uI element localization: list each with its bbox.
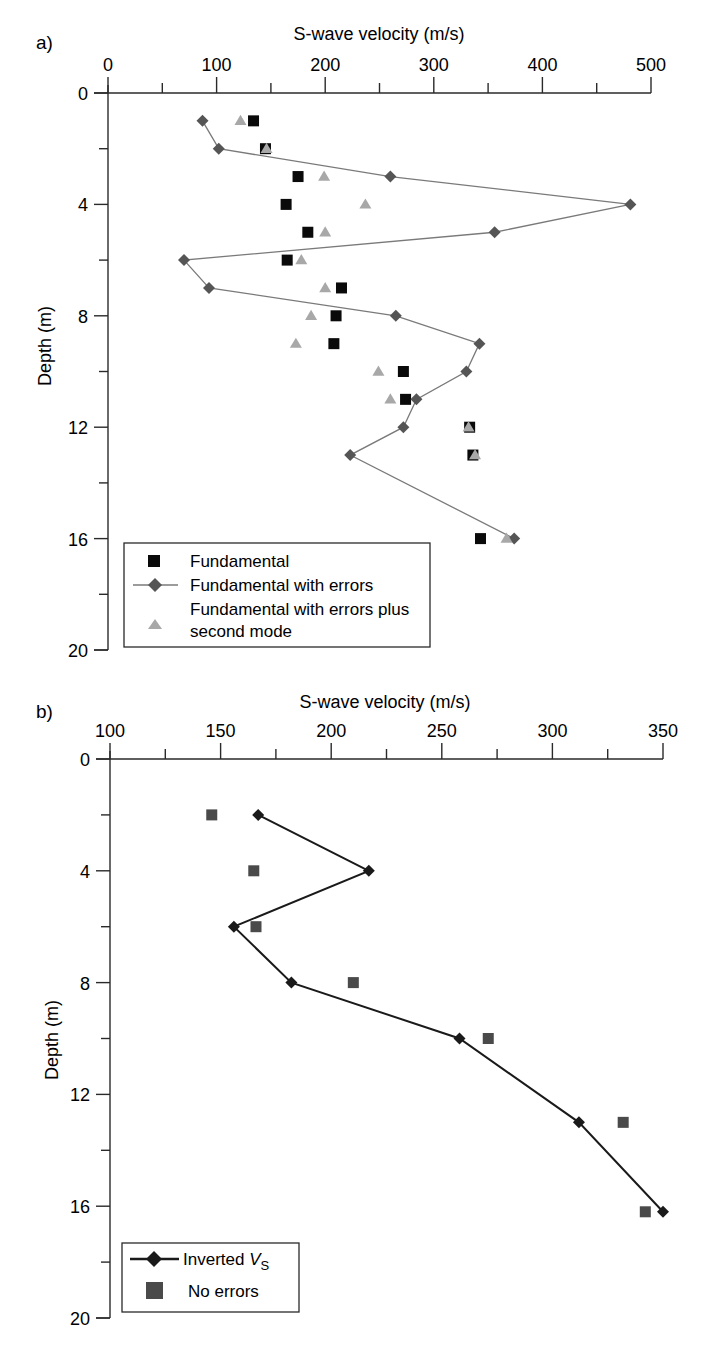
data-point-diamond bbox=[384, 171, 396, 183]
x-tick-label: 150 bbox=[206, 721, 236, 741]
data-point-diamond bbox=[460, 366, 472, 378]
panel-label-b: b) bbox=[36, 701, 53, 722]
x-axis-title-b: S-wave velocity (m/s) bbox=[299, 692, 470, 712]
chart-panel-a: a) S-wave velocity (m/s) Depth (m) 01002… bbox=[35, 24, 666, 661]
axes-b: 100150200250300350048121620 bbox=[70, 721, 678, 1329]
y-tick-label: 4 bbox=[80, 862, 90, 882]
data-point-square bbox=[282, 255, 293, 266]
x-tick-label: 500 bbox=[636, 55, 666, 75]
data-point-square bbox=[640, 1206, 651, 1217]
data-point-square bbox=[248, 115, 259, 126]
data-point-triangle bbox=[234, 115, 246, 125]
plot-area-b bbox=[206, 809, 669, 1218]
legend-label-with-errors: Fundamental with errors bbox=[190, 576, 373, 595]
y-tick-label: 12 bbox=[70, 1085, 90, 1105]
data-point-square bbox=[281, 199, 292, 210]
data-point-triangle bbox=[290, 338, 302, 348]
y-axis-title-b: Depth (m) bbox=[42, 1000, 62, 1080]
data-point-square bbox=[250, 921, 261, 932]
legend-label-fundamental: Fundamental bbox=[190, 552, 289, 571]
x-tick-label: 400 bbox=[527, 55, 557, 75]
series-fundamental-with-errors-plus-second-mode bbox=[234, 115, 512, 543]
data-point-square bbox=[331, 310, 342, 321]
data-point-square bbox=[618, 1117, 629, 1128]
legend-label-no-errors: No errors bbox=[188, 1282, 259, 1301]
x-tick-label: 0 bbox=[103, 55, 113, 75]
x-axis-title-a: S-wave velocity (m/s) bbox=[293, 24, 464, 44]
legend-b: Inverted VS No errors bbox=[122, 1243, 299, 1312]
data-point-triangle bbox=[295, 254, 307, 264]
data-point-diamond bbox=[473, 338, 485, 350]
data-point-square bbox=[336, 282, 347, 293]
figure: a) S-wave velocity (m/s) Depth (m) 01002… bbox=[0, 0, 718, 1357]
series-no-errors bbox=[206, 809, 651, 1217]
y-axis-title-a: Depth (m) bbox=[35, 306, 55, 386]
data-point-square bbox=[206, 809, 217, 820]
data-point-square bbox=[483, 1033, 494, 1044]
x-tick-label: 200 bbox=[310, 55, 340, 75]
y-tick-label: 0 bbox=[78, 84, 88, 104]
series-line bbox=[234, 815, 663, 1212]
legend-label-second-mode-line2: second mode bbox=[190, 622, 292, 641]
data-point-diamond bbox=[196, 115, 208, 127]
legend-square-marker bbox=[146, 1282, 163, 1299]
data-point-square bbox=[328, 338, 339, 349]
series-fundamental-with-errors bbox=[178, 115, 636, 545]
plot-area-a bbox=[178, 115, 636, 545]
x-tick-label: 350 bbox=[648, 721, 678, 741]
x-tick-label: 300 bbox=[537, 721, 567, 741]
data-point-square bbox=[475, 533, 486, 544]
y-tick-label: 4 bbox=[78, 195, 88, 215]
x-tick-label: 250 bbox=[427, 721, 457, 741]
data-point-triangle bbox=[359, 198, 371, 208]
data-point-diamond bbox=[363, 865, 375, 877]
y-tick-label: 12 bbox=[68, 418, 88, 438]
x-tick-label: 200 bbox=[316, 721, 346, 741]
panel-label-a: a) bbox=[36, 32, 53, 53]
series-fundamental bbox=[248, 115, 486, 544]
data-point-diamond bbox=[213, 143, 225, 155]
data-point-diamond bbox=[624, 198, 636, 210]
data-point-diamond bbox=[390, 310, 402, 322]
series-line bbox=[184, 121, 630, 539]
y-tick-label: 0 bbox=[80, 750, 90, 770]
y-tick-label: 20 bbox=[68, 641, 88, 661]
data-point-diamond bbox=[489, 226, 501, 238]
x-tick-label: 100 bbox=[202, 55, 232, 75]
data-point-triangle bbox=[318, 171, 330, 181]
chart-panel-b: b) S-wave velocity (m/s) Depth (m) 10015… bbox=[36, 692, 678, 1329]
legend-label-second-mode-line1: Fundamental with errors plus bbox=[190, 600, 409, 619]
data-point-diamond bbox=[252, 809, 264, 821]
data-point-square bbox=[302, 227, 313, 238]
data-point-square bbox=[398, 366, 409, 377]
y-tick-label: 16 bbox=[68, 530, 88, 550]
data-point-square bbox=[293, 171, 304, 182]
data-point-square bbox=[248, 865, 259, 876]
data-point-diamond bbox=[453, 1033, 465, 1045]
data-point-triangle bbox=[372, 366, 384, 376]
legend-square-marker bbox=[148, 555, 160, 567]
data-point-triangle bbox=[319, 226, 331, 236]
data-point-triangle bbox=[305, 310, 317, 320]
y-tick-label: 8 bbox=[80, 974, 90, 994]
y-tick-label: 16 bbox=[70, 1197, 90, 1217]
y-tick-label: 20 bbox=[70, 1309, 90, 1329]
data-point-diamond bbox=[410, 393, 422, 405]
data-point-diamond bbox=[344, 449, 356, 461]
x-tick-label: 300 bbox=[419, 55, 449, 75]
data-point-triangle bbox=[319, 282, 331, 292]
data-point-square bbox=[348, 977, 359, 988]
data-point-square bbox=[400, 394, 411, 405]
y-tick-label: 8 bbox=[78, 307, 88, 327]
data-point-diamond bbox=[397, 421, 409, 433]
legend-a: Fundamental Fundamental with errors Fund… bbox=[124, 543, 430, 647]
x-tick-label: 100 bbox=[95, 721, 125, 741]
series-inverted-vs bbox=[228, 809, 669, 1218]
data-point-triangle bbox=[384, 393, 396, 403]
